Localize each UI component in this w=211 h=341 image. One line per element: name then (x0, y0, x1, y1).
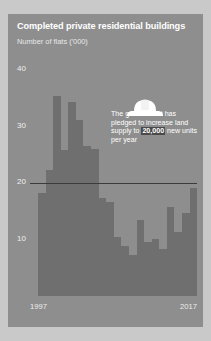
bar-2001[interactable] (68, 102, 76, 296)
chart-title: Completed private residential buildings (17, 21, 197, 32)
x-axis: 1997 2017 (30, 302, 197, 314)
y-tick-label-10: 10 (17, 234, 31, 243)
annotation-text: The government has pledged to increase l… (111, 110, 199, 144)
bar-2011[interactable] (144, 242, 152, 296)
bar-2006[interactable] (106, 202, 114, 296)
bar-1997[interactable] (38, 193, 46, 296)
bar-2013[interactable] (159, 249, 167, 296)
bar-series (38, 58, 197, 296)
bar-2002[interactable] (76, 120, 84, 296)
chart-card: Completed private residential buildings … (8, 14, 203, 327)
x-axis-label-start: 1997 (30, 302, 47, 311)
y-tick-label-20: 20 (17, 177, 31, 186)
reference-line-20000 (30, 183, 197, 184)
bar-2012[interactable] (152, 239, 160, 296)
bar-2014[interactable] (167, 207, 175, 296)
annotation-highlight: 20,000 (141, 127, 165, 135)
bar-1999[interactable] (53, 96, 61, 296)
bar-2000[interactable] (61, 150, 69, 296)
bar-2017[interactable] (190, 188, 198, 296)
screenshot-frame: Completed private residential buildings … (0, 0, 211, 341)
bar-2004[interactable] (91, 149, 99, 296)
y-tick-label-40: 40 (17, 64, 31, 73)
bar-2007[interactable] (114, 237, 122, 297)
bar-2009[interactable] (129, 255, 137, 296)
bar-2010[interactable] (137, 220, 145, 296)
x-axis-label-end: 2017 (180, 302, 197, 311)
plot-area: 10203040 (30, 58, 197, 296)
bar-2008[interactable] (121, 246, 129, 296)
bar-2003[interactable] (83, 146, 91, 296)
bar-2016[interactable] (182, 213, 190, 296)
bar-2005[interactable] (99, 198, 107, 296)
bar-1998[interactable] (46, 170, 54, 296)
bar-2015[interactable] (174, 232, 182, 296)
chart-subtitle: Number of flats ('000) (17, 37, 197, 46)
y-tick-label-30: 30 (17, 121, 31, 130)
